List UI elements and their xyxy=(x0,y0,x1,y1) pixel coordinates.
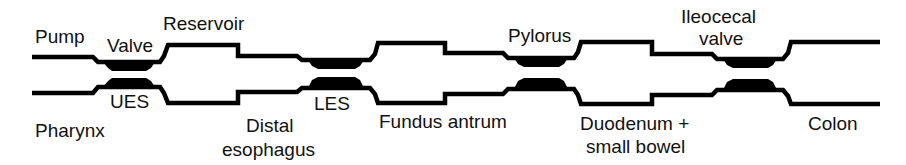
label-colon: Colon xyxy=(808,113,858,134)
gi-tract-diagram: Pump Valve Reservoir Pylorus Ileocecal v… xyxy=(0,0,906,165)
ues-valve-lower xyxy=(103,78,155,87)
ileocecal-valve-upper xyxy=(723,59,777,68)
label-duodenum-line2: small bowel xyxy=(586,136,685,157)
pylorus-valve-upper xyxy=(514,58,568,67)
label-distal-line2: esophagus xyxy=(222,139,315,160)
les-valve-lower xyxy=(308,77,364,88)
label-duodenum-line1: Duodenum + xyxy=(580,113,689,134)
label-pylorus: Pylorus xyxy=(508,25,571,46)
les-valve-upper xyxy=(308,60,364,69)
label-reservoir: Reservoir xyxy=(163,13,245,34)
ileocecal-valve-lower xyxy=(723,79,777,90)
pylorus-valve-lower xyxy=(514,78,568,89)
label-fundus-antrum: Fundus antrum xyxy=(379,111,507,132)
ues-valve-upper xyxy=(103,62,155,71)
label-pharynx: Pharynx xyxy=(35,120,105,141)
label-pump: Pump xyxy=(35,26,85,47)
label-les: LES xyxy=(314,93,350,114)
label-valve: Valve xyxy=(107,35,153,56)
label-ileocecal-line2: valve xyxy=(699,28,743,49)
label-distal-line1: Distal xyxy=(246,115,294,136)
label-ileocecal-line1: Ileocecal xyxy=(681,6,756,27)
label-ues: UES xyxy=(110,91,149,112)
